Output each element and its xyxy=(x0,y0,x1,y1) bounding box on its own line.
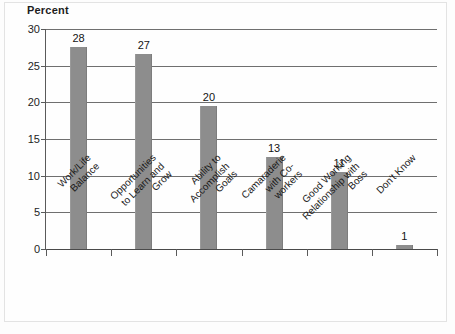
bar-value-label: 1 xyxy=(401,230,407,242)
gridline xyxy=(46,29,437,30)
gridline xyxy=(46,212,437,213)
x-axis-tick xyxy=(176,249,177,256)
y-axis-tick-label: 20 xyxy=(10,96,40,108)
x-axis-tick xyxy=(437,249,438,256)
gridline xyxy=(46,139,437,140)
bar[interactable] xyxy=(135,54,152,249)
x-axis-tick xyxy=(242,249,243,256)
y-axis-tick-label: 5 xyxy=(10,206,40,218)
bar-value-label: 13 xyxy=(268,142,280,154)
bar[interactable] xyxy=(266,157,283,249)
y-axis-tick-labels: 051015202530 xyxy=(8,29,40,249)
bar[interactable] xyxy=(331,172,348,249)
bar[interactable] xyxy=(200,106,217,249)
x-axis-tick xyxy=(372,249,373,256)
bar-value-label: 11 xyxy=(334,157,345,169)
bar-value-label: 28 xyxy=(72,32,84,44)
plot-area: 28272013111 xyxy=(46,29,437,249)
y-axis-title: Percent xyxy=(27,4,69,16)
bar-value-label: 27 xyxy=(138,39,150,51)
gridline xyxy=(46,176,437,177)
gridline xyxy=(46,66,437,67)
y-axis-tick-label: 15 xyxy=(10,133,40,145)
figure: Percent 051015202530 28272013111 Work/Li… xyxy=(0,0,455,334)
bar-value-label: 20 xyxy=(203,91,215,103)
gridline xyxy=(46,102,437,103)
x-axis-tick xyxy=(307,249,308,256)
x-axis-tick xyxy=(111,249,112,256)
y-axis-tick-label: 0 xyxy=(10,243,40,255)
y-axis-tick-label: 10 xyxy=(10,170,40,182)
x-axis-tick xyxy=(46,249,47,256)
y-axis-tick-label: 30 xyxy=(10,23,40,35)
y-axis-tick-label: 25 xyxy=(10,60,40,72)
bar[interactable] xyxy=(70,47,87,249)
